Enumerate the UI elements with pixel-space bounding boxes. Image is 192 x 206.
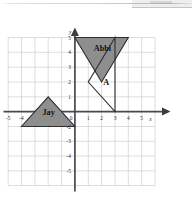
x-tick-label--4: -4 — [19, 115, 24, 121]
x-tick-label-3: 3 — [114, 115, 117, 121]
y-axis-arrowhead — [71, 28, 79, 37]
x-tick-label-5: 5 — [140, 115, 143, 121]
abbi-label: Abbi — [94, 44, 112, 53]
y-axis-name: y — [68, 29, 72, 35]
x-tick-label-1: 1 — [87, 115, 90, 121]
x-tick-label-4: 4 — [127, 115, 130, 121]
coordinate-plane-figure: -5 -4 0 1 2 3 4 5 x 5 4 3 2 1 -2 -3 -4 -… — [0, 0, 192, 206]
y-tick-label-2: 2 — [68, 79, 71, 85]
x-axis-arrowhead — [162, 108, 171, 116]
x-tick-label-0: 0 — [70, 115, 73, 121]
y-tick-label--5: -5 — [67, 168, 72, 174]
triangle-a-label: A — [103, 78, 109, 87]
y-tick-label--2: -2 — [67, 124, 72, 130]
y-tick-label-4: 4 — [68, 49, 71, 55]
x-tick-label--5: -5 — [6, 115, 11, 121]
y-axis-tick-labels: 5 4 3 2 1 -2 -3 -4 -5 y — [67, 29, 72, 174]
x-tick-label-2: 2 — [100, 115, 103, 121]
y-tick-label-3: 3 — [68, 64, 71, 70]
y-tick-label--3: -3 — [67, 138, 72, 144]
coordinate-plot-svg: -5 -4 0 1 2 3 4 5 x 5 4 3 2 1 -2 -3 -4 -… — [0, 0, 192, 206]
x-axis-name: x — [148, 116, 152, 122]
y-tick-label--4: -4 — [67, 153, 72, 159]
y-tick-label-1: 1 — [68, 94, 71, 100]
y-tick-label-5: 5 — [68, 35, 71, 41]
jay-label: Jay — [42, 108, 55, 117]
